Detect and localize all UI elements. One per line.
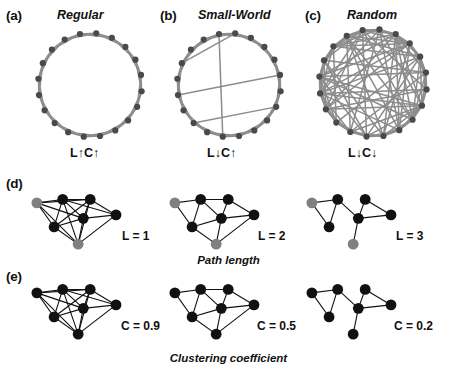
ring-node [109, 35, 115, 41]
shortcut-edge [219, 34, 223, 137]
graph-node [211, 329, 222, 340]
graph-node [78, 213, 89, 224]
path-length-graph-2 [169, 194, 259, 250]
graph-node [353, 213, 364, 224]
ring-node [248, 35, 254, 41]
ring-node [236, 133, 242, 139]
ring-lattice-regular [35, 30, 144, 139]
graph-node [195, 284, 206, 295]
ring-node [134, 104, 140, 110]
ring-node [81, 134, 87, 140]
ring-node [49, 47, 55, 53]
graph-node [49, 312, 60, 323]
ring-node [417, 54, 423, 60]
panel-letter-b: (b) [160, 8, 177, 23]
graph-node [386, 300, 397, 311]
ring-node [271, 57, 277, 63]
graph-node [249, 210, 260, 221]
ring-node [407, 40, 413, 46]
panel-letter-e: (e) [6, 269, 22, 284]
ring-node [359, 27, 365, 33]
ring-node [330, 43, 336, 49]
metric-label-random: L↓C↓ [348, 146, 377, 160]
panel-letter-a: (a) [6, 8, 22, 23]
path-length-label-2: L = 2 [258, 229, 285, 243]
graph-node [57, 284, 68, 295]
clustering-graph-3 [306, 284, 396, 340]
graph-node-highlighted [73, 239, 84, 250]
ring-node [376, 26, 382, 32]
ring-node [97, 133, 103, 139]
ring-node [264, 117, 270, 123]
graph-node [111, 300, 122, 311]
ring-node [62, 36, 68, 42]
graph-node-highlighted [31, 197, 42, 208]
ring-node [232, 30, 238, 36]
ring-node [261, 44, 267, 50]
clustering-graph-2 [169, 284, 259, 340]
graph-node [348, 329, 359, 340]
ring-node [138, 72, 144, 78]
ring-node [380, 133, 386, 139]
ring-node [423, 69, 429, 75]
graph-node [332, 284, 343, 295]
ring-node [363, 134, 369, 140]
ring-node [174, 76, 180, 82]
graph-node [111, 210, 122, 221]
graph-node [223, 194, 234, 205]
ring-node [323, 106, 329, 112]
graph-node [85, 194, 96, 205]
ring-node [41, 107, 47, 113]
path-length-label-1: L = 1 [122, 229, 149, 243]
graph-node [73, 329, 84, 340]
ring-node [278, 88, 284, 94]
graph-node [195, 194, 206, 205]
graph-node [249, 300, 260, 311]
ring-node [277, 72, 283, 78]
ring-node [347, 129, 353, 135]
graph-node [187, 222, 198, 233]
graph-node [353, 303, 364, 314]
network-topology-figure: (a) Regular (b) Small-World (c) Random L… [0, 0, 457, 379]
ring-node [393, 31, 399, 37]
ring-node [175, 92, 181, 98]
panel-title-regular: Regular [57, 8, 104, 22]
ring-node [204, 129, 210, 135]
graph-node [187, 312, 198, 323]
graph-node [85, 284, 96, 295]
graph-node [57, 194, 68, 205]
ring-node [112, 127, 118, 133]
ring-node [396, 127, 402, 133]
graph-node [31, 287, 42, 298]
ring-node [191, 120, 197, 126]
graph-node-highlighted [348, 239, 359, 250]
ring-node [409, 117, 415, 123]
ring-node [179, 60, 185, 66]
ring-node [122, 44, 128, 50]
graph-node [360, 284, 371, 295]
graph-node-highlighted [306, 197, 317, 208]
clustering-label-2: C = 0.5 [257, 319, 296, 333]
clustering-label-1: C = 0.9 [121, 319, 160, 333]
ring-node [424, 86, 430, 92]
ring-node [40, 60, 46, 66]
graph-node [223, 284, 234, 295]
panel-title-small-world: Small-World [198, 8, 271, 22]
panel-letter-c: (c) [305, 8, 321, 23]
graph-node [49, 222, 60, 233]
metric-label-small-world: L↓C↑ [207, 146, 236, 160]
ring-node [93, 30, 99, 36]
ring-node [419, 103, 425, 109]
ring-lattice-random [316, 26, 429, 139]
ring-node [65, 129, 71, 135]
graph-node-highlighted [211, 239, 222, 250]
ring-node [36, 92, 42, 98]
path-length-graph-3 [306, 194, 396, 250]
graph-node [216, 213, 227, 224]
ring-node [125, 117, 131, 123]
ring-node [132, 57, 138, 63]
graph-node [216, 303, 227, 314]
ring-node [316, 73, 322, 79]
ring-node [220, 134, 226, 140]
graph-node-highlighted [169, 197, 180, 208]
